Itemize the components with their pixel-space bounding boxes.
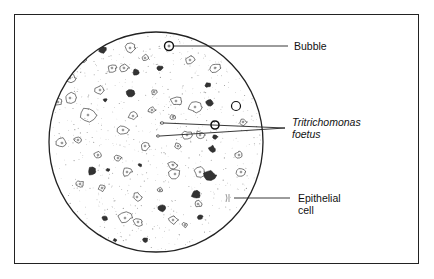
stipple-dot [112,206,113,207]
stipple-dot [140,186,141,187]
stipple-dot [193,168,194,169]
stipple-dot [102,85,103,86]
stipple-dot [181,146,182,147]
stipple-dot [98,193,99,194]
stipple-dot [159,228,160,229]
stipple-dot [112,186,113,187]
stipple-dot [80,140,81,141]
stipple-dot [218,62,219,63]
stipple-dot [183,85,184,86]
stipple-dot [169,101,170,102]
stipple-dot [175,122,176,123]
stipple-dot [55,166,56,167]
stipple-dot [179,168,180,169]
stipple-dot [80,152,81,153]
stipple-dot [245,168,246,169]
stipple-dot [155,237,156,238]
stipple-dot [126,140,127,141]
stipple-dot [159,200,160,201]
stipple-dot [115,200,116,201]
stipple-dot [93,142,94,143]
stipple-dot [213,140,214,141]
stipple-dot [223,180,224,181]
stipple-dot [142,131,143,132]
stipple-dot [68,146,69,147]
stipple-dot [192,189,193,190]
stipple-dot [220,109,221,110]
stipple-dot [181,151,182,152]
stipple-dot [173,60,174,61]
stipple-dot [73,135,74,136]
stipple-dot [154,57,155,58]
stipple-dot [144,181,145,182]
stipple-dot [151,247,152,248]
stipple-dot [89,124,90,125]
stipple-dot [168,114,169,115]
stipple-dot [84,73,85,74]
stipple-dot [104,213,105,214]
stipple-dot [185,165,186,166]
stipple-dot [181,54,182,55]
stipple-dot [151,55,152,56]
stipple-dot [217,188,218,189]
stipple-dot [121,236,122,237]
stipple-dot [242,183,243,184]
stipple-dot [130,64,131,65]
stipple-dot [89,99,90,100]
label-bubble: Bubble [294,40,327,52]
stipple-dot [97,105,98,106]
stipple-dot [211,191,212,192]
stipple-dot [110,55,111,56]
stipple-dot [243,100,244,101]
stipple-dot [98,70,99,71]
stipple-dot [112,207,113,208]
stipple-dot [110,67,111,68]
stipple-dot [157,199,158,200]
stipple-dot [152,54,153,55]
stipple-dot [191,77,192,78]
stipple-dot [165,153,166,154]
stipple-dot [101,129,102,130]
stipple-dot [123,65,124,66]
stipple-dot [162,86,163,87]
stipple-dot [113,161,114,162]
stipple-dot [156,167,157,168]
stipple-dot [221,61,222,62]
label-epithelial-line1: Epithelial [298,192,341,204]
stipple-dot [86,144,87,145]
stipple-dot [104,184,105,185]
stipple-dot [119,144,120,145]
stipple-dot [118,136,119,137]
stipple-dot [150,131,151,132]
stipple-dot [200,161,201,162]
stipple-dot [65,107,66,108]
stipple-dot [177,239,178,240]
stipple-dot [192,239,193,240]
stipple-dot [246,188,247,189]
stipple-dot [135,150,136,151]
stipple-dot [98,123,99,124]
stipple-dot [98,98,99,99]
stipple-dot [119,103,120,104]
stipple-dot [82,157,83,158]
stipple-dot [137,208,138,209]
stipple-dot [94,74,95,75]
stipple-dot [164,106,165,107]
stipple-dot [159,48,160,49]
stipple-dot [168,182,169,183]
stipple-dot [165,180,166,181]
stipple-dot [224,157,225,158]
stipple-dot [183,214,184,215]
stipple-dot [194,132,195,133]
stipple-dot [168,206,169,207]
stipple-dot [237,188,238,189]
stipple-dot [146,51,147,52]
stipple-dot [80,201,81,202]
stipple-dot [150,132,151,133]
stipple-dot [147,178,148,179]
stipple-dot [114,200,115,201]
stipple-dot [72,185,73,186]
stipple-dot [127,214,128,215]
stipple-dot [104,209,105,210]
stipple-dot [99,202,100,203]
